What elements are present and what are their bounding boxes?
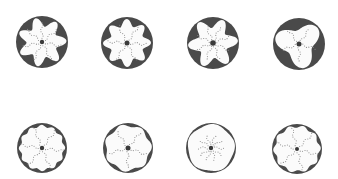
stipple-dot xyxy=(282,146,283,147)
stipple-dot xyxy=(206,143,207,144)
stipple-dot xyxy=(286,159,287,160)
stipple-dot xyxy=(207,148,208,149)
stipple-dot xyxy=(42,27,43,28)
stipple-dot xyxy=(215,48,216,49)
stipple-dot xyxy=(55,31,56,32)
stipple-dot xyxy=(317,153,318,154)
stipple-dot xyxy=(146,43,147,44)
stipple-dot xyxy=(210,50,211,51)
stipple-dot xyxy=(40,31,41,32)
stipple-dot xyxy=(311,46,312,47)
stipple-dot xyxy=(217,142,218,143)
stipple-dot xyxy=(29,44,30,45)
stipple-dot xyxy=(205,147,206,148)
stipple-dot xyxy=(36,132,37,133)
stipple-dot xyxy=(222,38,223,39)
stipple-dot xyxy=(293,35,294,36)
stipple-dot xyxy=(217,152,218,153)
stipple-dot xyxy=(44,145,45,146)
stipple-dot xyxy=(54,133,55,134)
stipple-dot xyxy=(309,138,310,139)
stipple-dot xyxy=(123,138,124,139)
stipple-dot xyxy=(207,56,208,57)
stipple-dot xyxy=(294,40,295,41)
stipple-dot xyxy=(42,33,43,34)
stipple-dot xyxy=(302,145,303,146)
stipple-dot xyxy=(36,44,37,45)
stipple-dot xyxy=(122,49,123,50)
stipple-dot xyxy=(146,153,147,154)
stipple-dot xyxy=(207,58,208,59)
stipple-dot xyxy=(116,41,117,42)
stipple-dot xyxy=(37,154,38,155)
center-core xyxy=(40,40,44,44)
stipple-dot xyxy=(131,54,132,55)
stipple-dot xyxy=(124,35,125,36)
stipple-dot xyxy=(117,149,118,150)
stipple-dot xyxy=(296,152,297,153)
stipple-dot xyxy=(46,161,47,162)
stipple-dot xyxy=(46,53,47,54)
stipple-dot xyxy=(54,130,55,131)
stipple-dot xyxy=(305,36,306,37)
stipple-dot xyxy=(112,43,113,44)
stipple-dot xyxy=(211,46,212,47)
stipple-dot xyxy=(23,144,24,145)
stipple-dot xyxy=(135,42,136,43)
stipple-dot xyxy=(207,136,208,137)
stipple-dot xyxy=(36,55,37,56)
stipple-dot xyxy=(299,158,300,159)
stipple-dot xyxy=(291,128,292,129)
cross-section-panel xyxy=(273,18,325,70)
stipple-dot xyxy=(283,50,284,51)
stipple-dot xyxy=(294,151,295,152)
stipple-dot xyxy=(215,35,216,36)
stipple-dot xyxy=(132,33,133,34)
stipple-dot xyxy=(38,40,39,41)
stipple-dot xyxy=(45,149,46,150)
stipple-dot xyxy=(43,36,44,37)
stipple-dot xyxy=(50,165,51,166)
stipple-dot xyxy=(299,60,300,61)
stipple-dot xyxy=(207,40,208,41)
stipple-dot xyxy=(131,143,132,144)
stipple-dot xyxy=(301,165,302,166)
stipple-dot xyxy=(35,129,36,130)
stipple-dot xyxy=(212,139,213,140)
stipple-dot xyxy=(285,161,286,162)
stipple-dot xyxy=(135,149,136,150)
stipple-dot xyxy=(213,46,214,47)
stipple-dot xyxy=(220,45,221,46)
stipple-dot xyxy=(54,44,55,45)
center-core xyxy=(297,42,302,47)
stipple-dot xyxy=(112,153,113,154)
stipple-dot xyxy=(299,146,300,147)
stipple-dot xyxy=(37,38,38,39)
stipple-dot xyxy=(284,48,285,49)
stipple-dot xyxy=(32,162,33,163)
stipple-dot xyxy=(218,45,219,46)
stipple-dot xyxy=(51,136,52,137)
stipple-dot xyxy=(119,25,120,26)
stipple-dot xyxy=(200,141,201,142)
stipple-dot xyxy=(211,48,212,49)
stipple-dot xyxy=(21,143,22,144)
stipple-dot xyxy=(50,148,51,149)
stipple-dot xyxy=(47,141,48,142)
stipple-dot xyxy=(51,33,52,34)
stipple-dot xyxy=(135,30,136,31)
stipple-dot xyxy=(205,45,206,46)
stipple-dot xyxy=(308,152,309,153)
stipple-dot xyxy=(296,140,297,141)
stipple-dot xyxy=(292,134,293,135)
stipple-dot xyxy=(210,153,211,154)
stipple-dot xyxy=(220,27,221,28)
stipple-dot xyxy=(140,133,141,134)
stipple-dot xyxy=(287,156,288,157)
stipple-dot xyxy=(307,150,308,151)
stipple-dot xyxy=(209,45,210,46)
stipple-dot xyxy=(206,138,207,139)
stipple-dot xyxy=(289,146,290,147)
stipple-dot xyxy=(124,37,125,38)
stipple-dot xyxy=(304,37,305,38)
